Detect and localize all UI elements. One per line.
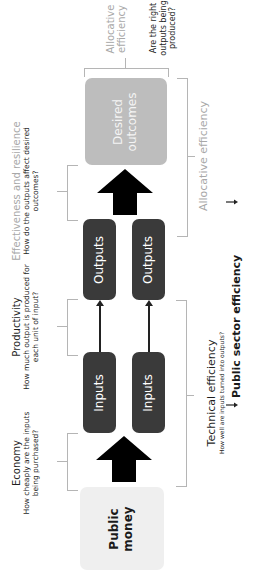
arrow-right-icon-1: [226, 198, 238, 206]
effectiveness-bracket-tick: [57, 191, 67, 192]
productivity-question-1: How much output is produced for: [22, 257, 31, 397]
technical-title: Technical efficiency: [205, 323, 218, 463]
connector-line-1: [99, 304, 101, 352]
technical-question: How well are inputs turned into outputs?: [218, 323, 225, 463]
big-arrow-up-icon-2: [97, 169, 153, 215]
allocative-top-title: Allocative efficiency: [105, 5, 127, 54]
economy-question-2: being purchased?: [31, 398, 40, 528]
economy-annotation: Economy How cheaply are the inputs being…: [11, 398, 45, 528]
productivity-annotation: Productivity How much output is produced…: [11, 257, 45, 397]
inputs-label-2: Inputs: [142, 374, 156, 411]
public-money-box: Public money: [80, 487, 164, 570]
public-sector-efficiency-annotation: Public sector efficiency: [230, 258, 246, 398]
effectiveness-question-2: outcomes?: [31, 121, 40, 261]
allocative-top-question-2: outputs being: [159, 0, 169, 57]
allocative-top-question-3: produced?: [168, 0, 178, 57]
arrow-right-icon-2: [226, 401, 238, 409]
public-money-line-2: money: [122, 506, 136, 551]
allocative-right-bracket-tick: [187, 156, 195, 157]
effectiveness-bracket: [67, 165, 78, 221]
public-sector-efficiency-title: Public sector efficiency: [230, 258, 243, 398]
allocative-top-annotation: Allocative efficiency: [105, 4, 155, 54]
technical-bracket: [176, 300, 187, 487]
economy-bracket-tick: [57, 461, 67, 462]
outputs-box-2: Outputs: [132, 219, 165, 300]
big-arrow-up-icon: [96, 436, 152, 482]
allocative-top-title-2: efficiency: [116, 5, 127, 54]
productivity-title: Productivity: [11, 257, 22, 397]
effectiveness-question-1: How do the outputs affect desired: [22, 121, 31, 261]
allocative-right-bracket: [177, 78, 188, 237]
productivity-question-2: each unit of input?: [31, 257, 40, 397]
connector-arrowhead-1: [96, 300, 104, 306]
connector-arrowhead-2: [145, 300, 153, 306]
productivity-bracket: [67, 299, 78, 356]
public-money-label: Public money: [108, 506, 136, 551]
connector-line-2: [148, 304, 150, 352]
inputs-box-2: Inputs: [132, 352, 165, 433]
effectiveness-annotation: Effectiveness and resilience How do the …: [11, 121, 45, 261]
allocative-top-bracket-tick: [125, 58, 126, 68]
desired-outcomes-line-2: outcomes: [126, 92, 140, 151]
inputs-label-1: Inputs: [93, 374, 107, 411]
allocative-right-title: Allocative efficiency: [197, 91, 210, 221]
desired-outcomes-box: Desired outcomes: [85, 78, 167, 165]
economy-question-1: How cheaply are the inputs: [22, 398, 31, 528]
allocative-top-question-1: Are the right: [149, 0, 159, 57]
desired-outcomes-label: Desired outcomes: [112, 92, 140, 151]
productivity-bracket-tick: [57, 326, 67, 327]
effectiveness-title: Effectiveness and resilience: [11, 121, 22, 261]
allocative-right-annotation: Allocative efficiency: [197, 91, 213, 221]
allocative-top-title-1: Allocative: [105, 5, 116, 54]
outputs-label-1: Outputs: [93, 236, 107, 284]
inputs-box-1: Inputs: [83, 352, 116, 433]
public-money-line-1: Public: [108, 506, 122, 551]
technical-bracket-tick: [186, 395, 194, 396]
allocative-top-bracket: [84, 68, 169, 77]
outputs-box-1: Outputs: [83, 219, 116, 300]
economy-bracket: [67, 433, 78, 491]
desired-outcomes-line-1: Desired: [112, 92, 126, 151]
outputs-label-2: Outputs: [142, 236, 156, 284]
economy-title: Economy: [11, 398, 22, 528]
allocative-top-question: Are the right outputs being produced?: [149, 0, 185, 57]
